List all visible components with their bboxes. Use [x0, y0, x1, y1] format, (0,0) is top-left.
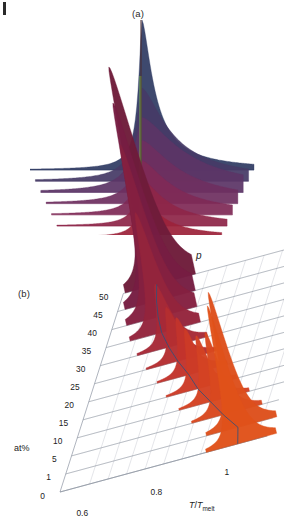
depth-tick-25: 25: [58, 382, 80, 392]
page-margin-mark: [3, 2, 6, 15]
x-tick-0-6: 0.6: [76, 508, 98, 518]
depth-tick-45: 45: [81, 310, 103, 320]
figure-root: [0, 0, 284, 530]
panel-b-ridge-baseline: [60, 436, 267, 492]
depth-tick-50: 50: [86, 292, 108, 302]
panel-b-plot: [60, 1, 284, 492]
depth-tick-35: 35: [69, 346, 91, 356]
depth-tick-10: 10: [40, 436, 62, 446]
depth-tick-1: 1: [29, 472, 51, 482]
z-axis-label-p: p: [196, 250, 202, 261]
x-tick-0-8: 0.8: [150, 487, 172, 497]
x-tick-1: 1: [225, 467, 247, 477]
depth-tick-20: 20: [52, 400, 74, 410]
panel-b-label: (b): [18, 288, 30, 299]
panel-b-depth-axis: [60, 293, 123, 492]
depth-tick-0: 0: [23, 491, 45, 501]
x-axis-label: T/Tmelt: [189, 500, 215, 512]
depth-tick-40: 40: [75, 328, 97, 338]
depth-tick-30: 30: [63, 364, 85, 374]
depth-tick-15: 15: [46, 418, 68, 428]
depth-tick-5: 5: [35, 454, 57, 464]
panel-a-label: (a): [132, 8, 144, 19]
depth-axis-label: at%: [14, 443, 30, 453]
